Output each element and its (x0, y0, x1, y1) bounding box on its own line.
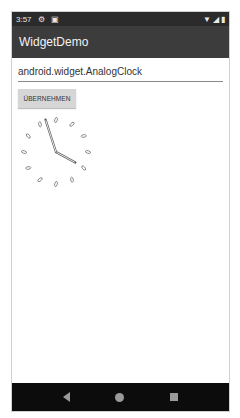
clock-hour-marker (26, 166, 32, 169)
navigation-bar (12, 383, 229, 411)
home-button-icon[interactable] (115, 393, 124, 402)
device-screen: 3:57 ⚙ ▣ ▼ ◢ ▮ WidgetDemo ÜBERNEHMEN (11, 11, 230, 412)
analog-clock (16, 112, 96, 192)
battery-icon: ▮ (221, 15, 225, 24)
app-title: WidgetDemo (19, 35, 88, 49)
app-bar: WidgetDemo (12, 26, 229, 58)
clock-hour-marker (81, 134, 87, 137)
back-button-icon[interactable] (63, 392, 70, 402)
clock-hour-marker (37, 177, 43, 182)
signal-icon: ◢ (213, 15, 219, 24)
clock-hour-marker (26, 133, 31, 139)
clock-hour-marker (54, 117, 58, 123)
gear-icon: ⚙ (38, 15, 45, 24)
clock-hour-marker (81, 165, 86, 171)
wifi-icon: ▼ (203, 15, 211, 24)
status-bar: 3:57 ⚙ ▣ ▼ ◢ ▮ (12, 12, 229, 26)
widget-class-input[interactable] (18, 64, 223, 82)
clock-hour-marker (70, 177, 73, 183)
clock-hour-marker (85, 150, 91, 154)
apply-button[interactable]: ÜBERNEHMEN (18, 89, 76, 108)
clock-hour-marker (54, 181, 58, 187)
clock-hour-marker (38, 122, 41, 128)
clock-hour-marker (21, 150, 27, 154)
status-time: 3:57 (16, 15, 32, 24)
clock-hour-marker (69, 122, 75, 127)
notification-icon: ▣ (51, 15, 59, 24)
recents-button-icon[interactable] (170, 393, 178, 401)
